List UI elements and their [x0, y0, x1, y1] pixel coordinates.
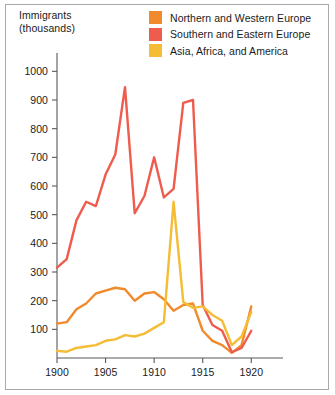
x-tick-label: 1920 — [231, 366, 271, 378]
x-tick-label: 1910 — [134, 366, 174, 378]
series-line — [57, 87, 251, 352]
y-tick-label: 500 — [14, 209, 48, 221]
chart-plot-area — [0, 0, 335, 395]
x-tick-label: 1915 — [183, 366, 223, 378]
chart-figure: Immigrants (thousands) Northern and West… — [0, 0, 335, 395]
y-tick-label: 400 — [14, 237, 48, 249]
y-tick-label: 300 — [14, 266, 48, 278]
y-tick-label: 200 — [14, 295, 48, 307]
series-line — [57, 202, 251, 352]
y-tick-label: 1000 — [14, 65, 48, 77]
x-tick-label: 1905 — [86, 366, 126, 378]
y-tick-label: 100 — [14, 323, 48, 335]
y-tick-label: 900 — [14, 94, 48, 106]
chart-series — [57, 87, 251, 353]
x-tick-label: 1900 — [37, 366, 77, 378]
y-tick-label: 600 — [14, 180, 48, 192]
y-tick-label: 800 — [14, 123, 48, 135]
y-tick-label: 700 — [14, 151, 48, 163]
